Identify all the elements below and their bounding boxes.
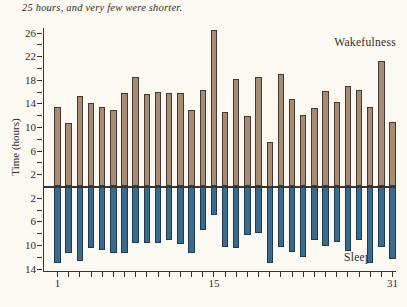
wakefulness-bar [110, 110, 116, 186]
wakefulness-bar [155, 92, 161, 186]
x-axis-tick [258, 272, 259, 277]
x-axis-tick [113, 272, 114, 277]
y-axis-tick [37, 44, 42, 45]
y-axis-tick [37, 115, 42, 116]
sleep-bar [155, 187, 161, 243]
wakefulness-bar [200, 90, 206, 186]
wakefulness-bar [144, 94, 150, 187]
x-axis-tick [292, 272, 293, 277]
wakefulness-bar [311, 108, 317, 186]
y-axis-tick [37, 269, 42, 270]
x-axis-tick [135, 272, 136, 277]
sleep-bar [110, 187, 116, 253]
y-axis-line [43, 28, 45, 272]
y-tick-label: 2 [12, 168, 36, 181]
sleep-bar [99, 187, 105, 251]
x-tick-label: 15 [203, 277, 225, 290]
wakefulness-bar [188, 110, 194, 186]
y-tick-label: 14 [12, 97, 36, 110]
x-axis-tick [347, 272, 348, 277]
y-axis-tick [37, 162, 42, 163]
x-axis-line [43, 271, 397, 272]
x-axis-tick [280, 272, 281, 277]
sleep-bar [177, 187, 183, 244]
x-tick-label: 1 [47, 277, 69, 290]
y-axis-tick [37, 92, 42, 93]
sleep-bar [244, 187, 250, 236]
y-tick-label: 2 [12, 192, 36, 205]
sleep-bar [188, 187, 194, 254]
x-axis-tick [325, 272, 326, 277]
wakefulness-bar [289, 99, 295, 186]
wakefulness-bar [132, 77, 138, 187]
y-axis-tick [37, 198, 42, 199]
sleep-bar [54, 187, 60, 263]
sleep-bar [144, 187, 150, 243]
sleep-bar [211, 187, 217, 216]
wakefulness-bar [99, 107, 105, 186]
x-axis-tick [180, 272, 181, 277]
x-axis-tick [247, 272, 248, 277]
x-axis-tick [79, 272, 80, 277]
sleep-bar [278, 187, 284, 248]
x-axis-tick [191, 272, 192, 277]
y-axis-tick [37, 257, 42, 258]
wakefulness-bar [166, 93, 172, 187]
x-tick-label: 31 [382, 277, 404, 290]
sleep-bar [389, 187, 395, 260]
y-tick-label: 6 [12, 215, 36, 228]
wakefulness-bar [233, 79, 239, 187]
y-axis-tick [37, 103, 42, 104]
y-axis-tick [37, 245, 42, 246]
wakefulness-bar [77, 96, 83, 187]
y-axis-tick [37, 174, 42, 175]
sleep-bar [267, 187, 273, 263]
sleep-bar [322, 187, 328, 246]
x-axis-tick [381, 272, 382, 277]
x-axis-tick [213, 272, 214, 277]
wakefulness-bar [300, 115, 306, 187]
sleep-bar [77, 187, 83, 261]
y-tick-label: 18 [12, 74, 36, 87]
wakefulness-series-label: Wakefulness [334, 36, 396, 48]
zero-line [43, 186, 397, 188]
wakefulness-bar [334, 102, 340, 187]
sleep-bar [367, 187, 373, 263]
x-axis-tick [359, 272, 360, 277]
y-tick-label: 26 [12, 27, 36, 40]
wakefulness-bar [121, 93, 127, 186]
x-axis-tick [269, 272, 270, 277]
y-axis-tick [37, 80, 42, 81]
sleep-bar [166, 187, 172, 240]
wakefulness-bar [88, 103, 94, 187]
wakefulness-bar [378, 61, 384, 187]
wakefulness-bar [267, 142, 273, 186]
x-axis-tick [225, 272, 226, 277]
x-axis-tick [303, 272, 304, 277]
x-axis-tick [57, 272, 58, 277]
y-tick-label: 10 [12, 121, 36, 134]
x-axis-tick [158, 272, 159, 277]
x-axis-tick [91, 272, 92, 277]
y-axis-tick [37, 139, 42, 140]
wakefulness-bar [255, 77, 261, 187]
x-axis-tick [370, 272, 371, 277]
wakefulness-bar [389, 122, 395, 186]
sleep-bar [233, 187, 239, 248]
y-axis-tick [37, 56, 42, 57]
y-axis-tick [37, 151, 42, 152]
wakefulness-bar [322, 91, 328, 187]
y-axis-tick [37, 210, 42, 211]
sleep-bar [378, 187, 384, 248]
sleep-bar [289, 187, 295, 252]
sleep-bar [255, 187, 261, 234]
circadian-sleep-wake-figure: 25 hours, and very few were shorter. Wak… [0, 0, 407, 307]
wakefulness-bar [222, 112, 228, 187]
sleep-bar [121, 187, 127, 254]
y-axis-tick [37, 33, 42, 34]
wakefulness-bar [367, 107, 373, 187]
y-tick-label: 10 [12, 239, 36, 252]
x-axis-tick [336, 272, 337, 277]
x-axis-tick [392, 272, 393, 277]
sleep-bar [200, 187, 206, 230]
